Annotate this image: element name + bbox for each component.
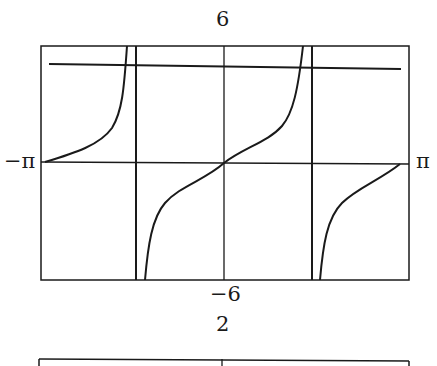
horizontal-reference-line: [49, 64, 401, 69]
plot-2: [39, 359, 409, 366]
chart-canvas: [0, 0, 437, 366]
plot-1: [41, 46, 409, 280]
plot2-frame-top: [39, 359, 409, 361]
curve-branch-3: [320, 164, 400, 280]
